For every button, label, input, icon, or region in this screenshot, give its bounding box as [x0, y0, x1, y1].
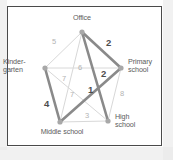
edge-weight-primary-high: 8: [120, 90, 124, 98]
edge-weight-office-high: 1: [88, 86, 93, 94]
scan-artifact-right: [163, 0, 173, 160]
edge-weight-kindergarten-office: 5: [52, 38, 56, 46]
edge-weight-office-middle: 6: [78, 64, 82, 72]
node-label-primary: Primary school: [128, 58, 168, 74]
node-label-high-line2: school: [115, 120, 135, 129]
graph-node: [118, 65, 123, 70]
edge-weight-office-primary: 2: [106, 39, 111, 47]
edge-weight-kindergarten-high: 7: [70, 91, 74, 99]
graph-node: [42, 65, 47, 70]
graph-node: [79, 29, 84, 34]
node-label-office-text: Office: [73, 13, 91, 22]
scan-artifact-top-left: [0, 0, 7, 150]
edge-weight-middle-high: 3: [85, 112, 89, 120]
graph-node: [57, 119, 62, 124]
node-label-office: Office: [62, 14, 102, 22]
graph-figure: Office Primary school Kinder- garten Mid…: [0, 0, 173, 160]
node-label-kindergarten: Kinder- garten: [3, 58, 43, 74]
graph-edge: [60, 121, 108, 122]
edge-weight-kindergarten-middle: 4: [44, 100, 49, 108]
node-label-kindergarten-line2: garten: [3, 65, 23, 74]
edge-weight-primary-middle: 2: [101, 70, 106, 78]
graph-node: [105, 118, 110, 123]
node-label-middle: Middle school: [27, 128, 97, 136]
node-label-primary-line2: school: [128, 65, 148, 74]
node-label-middle-text: Middle school: [41, 127, 84, 136]
graph-edge: [45, 68, 60, 122]
scan-artifact-bottom: [0, 147, 173, 160]
graph-edge: [45, 68, 108, 121]
graph-edge: [45, 32, 82, 68]
node-label-high: High school: [115, 113, 151, 129]
edge-weight-kindergarten-primary: 7: [62, 75, 66, 83]
